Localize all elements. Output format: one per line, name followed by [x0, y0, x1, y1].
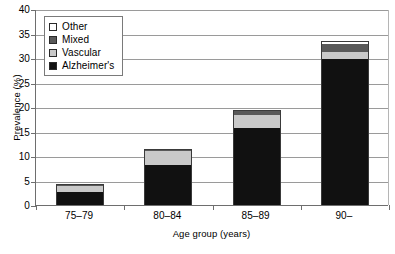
- bar-segment-vascular: [144, 151, 192, 165]
- legend-item[interactable]: Other: [49, 20, 114, 33]
- bar-90-[interactable]: [321, 41, 369, 205]
- bar-segment-alzheimers: [233, 128, 281, 205]
- bar-80-84[interactable]: [144, 149, 192, 205]
- bar-segment-alzheimers: [56, 192, 104, 205]
- x-axis-title: Age group (years): [35, 228, 388, 239]
- y-axis-tick-label: 20: [8, 103, 30, 113]
- y-axis-tick-label: 35: [8, 30, 30, 40]
- legend-item-label: Alzheimer's: [62, 61, 114, 71]
- y-axis-tick-label: 40: [8, 5, 30, 15]
- bar-segment-alzheimers: [144, 165, 192, 205]
- legend-swatch-icon: [49, 36, 57, 44]
- y-axis-tick-label: 0: [8, 201, 30, 211]
- y-axis-tick-label: 5: [8, 177, 30, 187]
- y-axis-tick-label: 30: [8, 54, 30, 64]
- y-axis-tick-label: 10: [8, 152, 30, 162]
- bar-segment-alzheimers: [321, 59, 369, 205]
- legend-swatch-icon: [49, 62, 57, 70]
- x-axis-tick-label: 80–84: [122, 210, 212, 221]
- legend-item[interactable]: Mixed: [49, 33, 114, 46]
- bar-segment-vascular: [233, 115, 281, 128]
- plot-right-border: [388, 10, 389, 205]
- x-axis-tick-mark: [389, 205, 390, 210]
- legend-item-label: Vascular: [62, 48, 101, 58]
- bar-75-79[interactable]: [56, 184, 104, 205]
- legend-swatch-icon: [49, 49, 57, 57]
- y-axis-tick-label: 15: [8, 128, 30, 138]
- legend-swatch-icon: [49, 23, 57, 31]
- x-axis-tick-label: 75–79: [34, 210, 124, 221]
- x-axis-tick-label: 90–: [299, 210, 389, 221]
- prevalence-by-age-stacked-bar-chart: Prevalence (%) 0510152025303540 75–7980–…: [0, 0, 395, 254]
- legend-item[interactable]: Vascular: [49, 46, 114, 59]
- legend-item-label: Mixed: [62, 35, 89, 45]
- chart-legend: OtherMixedVascularAlzheimer's: [44, 16, 123, 76]
- y-axis-tick-label: 25: [8, 79, 30, 89]
- legend-item[interactable]: Alzheimer's: [49, 59, 114, 72]
- bar-segment-mixed: [321, 44, 369, 52]
- x-axis-tick-label: 85–89: [211, 210, 301, 221]
- y-axis-tick-labels: 0510152025303540: [0, 0, 30, 254]
- legend-item-label: Other: [62, 22, 88, 32]
- bar-85-89[interactable]: [233, 110, 281, 205]
- bar-segment-vascular: [321, 52, 369, 60]
